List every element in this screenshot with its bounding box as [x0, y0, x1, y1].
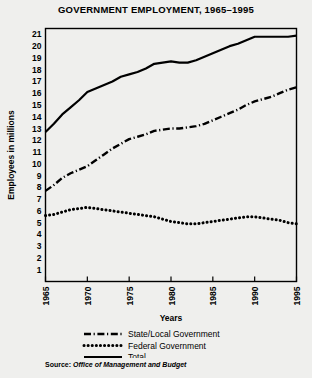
- y-tick-label: 21: [32, 29, 42, 39]
- x-axis-title: Years: [160, 313, 183, 323]
- y-tick-label: 18: [32, 65, 42, 75]
- y-tick-label: 10: [32, 159, 42, 169]
- y-tick-label: 14: [32, 112, 42, 122]
- x-tick-label: 1995: [292, 286, 302, 305]
- y-tick-label: 19: [32, 53, 42, 63]
- y-tick-label: 11: [33, 147, 42, 157]
- y-tick-label: 20: [32, 41, 42, 51]
- y-tick-label: 17: [32, 76, 42, 86]
- source-body: Office of Management and Budget: [73, 361, 186, 368]
- government-employment-chart: GOVERNMENT EMPLOYMENT, 1965–1995 1234567…: [0, 0, 312, 378]
- y-tick-label: 15: [32, 100, 42, 110]
- x-tick-label: 1990: [250, 286, 260, 305]
- legend-label-2: Federal Government: [128, 341, 207, 351]
- y-tick-label: 7: [37, 194, 42, 204]
- x-tick-label: 1985: [208, 286, 218, 305]
- y-tick-label: 1: [37, 265, 42, 275]
- y-tick-label: 5: [37, 218, 42, 228]
- x-tick-label: 1965: [41, 286, 51, 305]
- y-tick-label: 9: [37, 171, 42, 181]
- y-tick-label: 4: [37, 229, 42, 239]
- legend-label-1: State/Local Government: [128, 329, 220, 339]
- y-axis-title: Employees in millions: [6, 110, 16, 200]
- y-tick-label: 6: [37, 206, 42, 216]
- y-tick-label: 2: [37, 253, 42, 263]
- series-line-state-local-government: [46, 87, 297, 191]
- y-tick-label: 3: [37, 241, 42, 251]
- legend-label-3: Total: [128, 352, 146, 358]
- source-prefix: Source:: [45, 361, 71, 368]
- y-tick-label: 8: [37, 182, 42, 192]
- x-tick-label: 1975: [125, 286, 135, 305]
- x-tick-label: 1980: [167, 286, 177, 305]
- plot-canvas: 1234567891011121314151617181920211965197…: [0, 0, 312, 358]
- x-tick-label: 1970: [83, 286, 93, 305]
- y-tick-label: 12: [32, 135, 42, 145]
- y-tick-label: 13: [32, 124, 42, 134]
- series-line-total: [46, 36, 297, 132]
- plot-frame: [46, 29, 297, 282]
- series-line-federal-government: [46, 207, 297, 223]
- source-note: Source: Office of Management and Budget: [45, 361, 186, 368]
- y-tick-label: 16: [32, 88, 42, 98]
